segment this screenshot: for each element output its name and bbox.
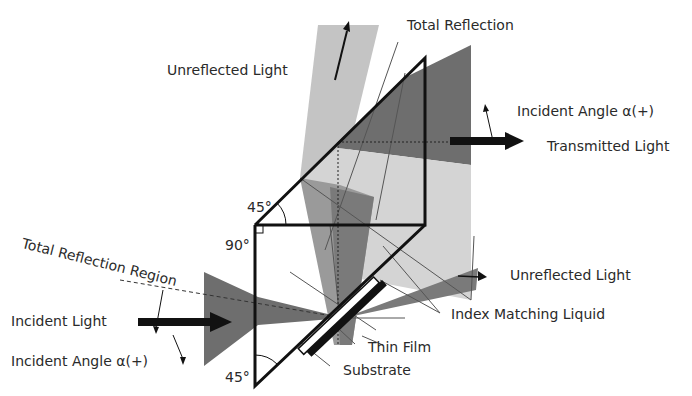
- optical-diagram: [0, 0, 692, 396]
- label-total-reflection: Total Reflection: [407, 18, 514, 32]
- label-thin-film: Thin Film: [368, 340, 431, 354]
- label-unreflected-light-right: Unreflected Light: [510, 268, 631, 282]
- label-incident-angle-top: Incident Angle α(+): [517, 104, 654, 118]
- label-unreflected-light-top: Unreflected Light: [167, 63, 288, 77]
- angle-bottom-45: 45°: [225, 370, 250, 384]
- label-index-matching-liquid: Index Matching Liquid: [451, 307, 605, 321]
- label-transmitted-light: Transmitted Light: [547, 139, 669, 153]
- label-incident-light: Incident Light: [11, 314, 107, 328]
- angle-top-45: 45°: [247, 200, 272, 214]
- label-incident-angle-bottom: Incident Angle α(+): [11, 354, 148, 368]
- label-substrate: Substrate: [343, 363, 411, 377]
- angle-90: 90°: [225, 238, 250, 252]
